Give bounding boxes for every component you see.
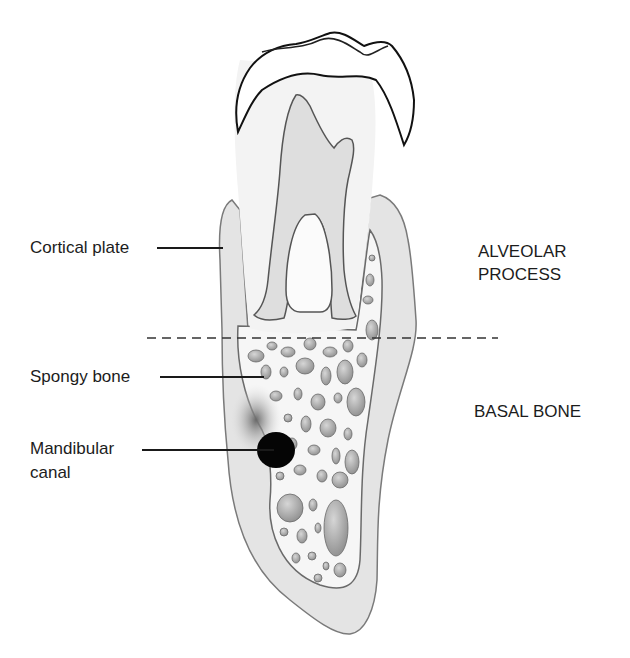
region-basal-bone: BASAL BONE xyxy=(474,400,581,423)
leader-mandibular-canal xyxy=(142,449,274,451)
label-mandibular-canal-2: canal xyxy=(30,462,71,483)
label-cortical-plate: Cortical plate xyxy=(30,237,129,258)
label-mandibular-canal-1: Mandibular xyxy=(30,438,114,459)
region-alveolar-process-1: ALVEOLAR xyxy=(478,240,567,263)
tooth-mandible-diagram xyxy=(0,0,630,658)
region-alveolar-process-2: PROCESS xyxy=(478,263,561,286)
leader-cortical-plate xyxy=(157,247,223,249)
label-spongy-bone: Spongy bone xyxy=(30,366,130,387)
leader-spongy-bone xyxy=(160,376,264,378)
